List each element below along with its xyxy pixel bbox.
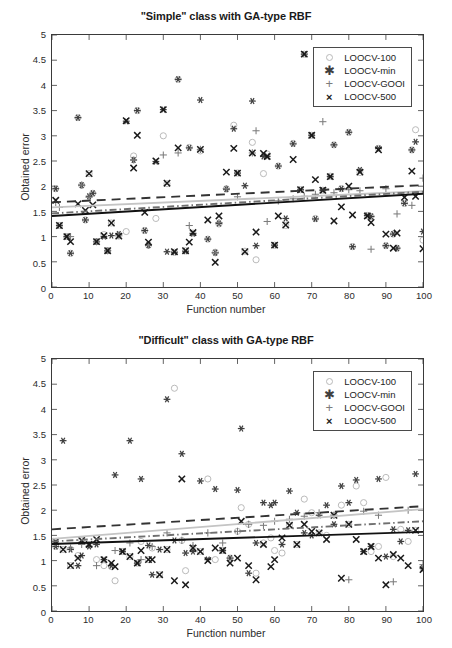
marker-cross xyxy=(405,562,411,568)
marker-asterisk xyxy=(182,550,189,556)
marker-cross xyxy=(245,562,251,568)
marker-circle xyxy=(231,122,237,128)
y-tick-label: 3 xyxy=(41,130,46,141)
marker-cross xyxy=(286,522,292,528)
y-tick-label: 5 xyxy=(41,29,46,40)
marker-asterisk xyxy=(323,502,330,508)
y-tick-label: 4 xyxy=(41,403,46,414)
marker-plus xyxy=(319,118,326,125)
marker-cross xyxy=(331,218,337,224)
x-tick-label: 100 xyxy=(416,614,432,625)
marker-cross xyxy=(216,213,222,219)
marker-plus xyxy=(204,529,211,536)
chart-panel-difficult: "Difficult" class with GA-type RBF 00.51… xyxy=(0,324,452,648)
marker-plus xyxy=(252,127,259,134)
y-tick-label: 0 xyxy=(41,607,46,618)
legend-label: LOOCV-GOOI xyxy=(340,78,405,89)
marker-asterisk xyxy=(234,487,241,493)
marker-cross xyxy=(375,555,381,561)
marker-asterisk xyxy=(279,542,286,548)
marker-plus xyxy=(390,578,397,585)
marker-cross xyxy=(234,555,240,561)
x-tick-label: 90 xyxy=(381,614,392,625)
marker-asterisk xyxy=(149,572,156,578)
y-tick-label: 3 xyxy=(41,454,46,465)
marker-asterisk xyxy=(253,243,260,249)
marker-circle xyxy=(160,133,166,139)
marker-asterisk xyxy=(345,500,352,506)
marker-cross xyxy=(290,156,296,162)
marker-asterisk xyxy=(145,543,152,549)
marker-cross xyxy=(349,212,355,218)
marker-plus xyxy=(264,218,271,225)
marker-cross xyxy=(212,545,218,551)
legend-entry-LOOCV-GOOI[interactable]: +LOOCV-GOOI xyxy=(318,401,405,414)
y-tick-label: 1.5 xyxy=(33,530,46,541)
legend-label: LOOCV-GOOI xyxy=(340,402,405,413)
marker-circle xyxy=(268,535,274,541)
legend-label: LOOCV-100 xyxy=(340,52,396,63)
legend-label: LOOCV-min xyxy=(340,65,395,76)
marker-cross xyxy=(60,546,66,552)
y-tick-label: 3.5 xyxy=(33,105,46,116)
y-tick-label: 1.5 xyxy=(33,206,46,217)
y-tick-label: 1 xyxy=(41,232,46,243)
legend-label: LOOCV-100 xyxy=(340,376,396,387)
x-tick-label: 80 xyxy=(344,614,355,625)
marker-asterisk xyxy=(197,97,204,103)
marker-circle xyxy=(412,127,418,133)
marker-plus xyxy=(393,210,400,217)
marker-circle xyxy=(171,385,177,391)
marker-asterisk xyxy=(412,139,419,145)
plot-area-simple: LOOCV-100✱LOOCV-min+LOOCV-GOOI×LOOCV-500 xyxy=(51,34,424,288)
marker-circle xyxy=(249,139,255,145)
marker-cross xyxy=(394,230,400,236)
marker-cross xyxy=(420,246,423,252)
marker-asterisk xyxy=(164,249,171,255)
marker-asterisk xyxy=(286,488,293,494)
marker-cross xyxy=(353,536,359,542)
marker-cross xyxy=(253,577,259,583)
marker-asterisk xyxy=(282,216,289,222)
marker-cross xyxy=(205,217,211,223)
marker-cross xyxy=(398,555,404,561)
marker-asterisk xyxy=(197,478,204,484)
marker-plus xyxy=(111,547,118,554)
marker-cross xyxy=(268,563,274,569)
legend-label: LOOCV-min xyxy=(340,389,395,400)
marker-asterisk xyxy=(253,540,260,546)
marker-circle xyxy=(101,563,107,569)
y-tick-label: 2.5 xyxy=(33,156,46,167)
marker-cross xyxy=(212,259,218,265)
marker-asterisk xyxy=(164,396,171,402)
marker-cross xyxy=(127,553,133,559)
x-tick-label: 0 xyxy=(48,614,53,625)
marker-asterisk xyxy=(242,183,249,189)
marker-cross xyxy=(383,582,389,588)
x-tick-label: 50 xyxy=(232,290,243,301)
y-tick-label: 0 xyxy=(41,283,46,294)
marker-cross xyxy=(223,169,229,175)
y-tick-label: 5 xyxy=(41,353,46,364)
x-tick-label: 80 xyxy=(344,290,355,301)
x-tick-label: 10 xyxy=(83,614,94,625)
marker-cross xyxy=(86,170,92,176)
legend-entry-LOOCV-GOOI[interactable]: +LOOCV-GOOI xyxy=(318,77,405,90)
plus-icon: + xyxy=(318,401,340,414)
x-tick-label: 60 xyxy=(270,614,281,625)
legend-entry-LOOCV-500[interactable]: ×LOOCV-500 xyxy=(318,90,405,103)
legend-entry-LOOCV-500[interactable]: ×LOOCV-500 xyxy=(318,414,405,427)
marker-asterisk xyxy=(383,554,390,560)
marker-plus xyxy=(160,151,167,158)
x-tick-label: 20 xyxy=(120,290,131,301)
x-tick-label: 70 xyxy=(307,614,318,625)
marker-asterisk xyxy=(108,233,115,239)
marker-asterisk xyxy=(60,438,67,444)
marker-cross xyxy=(409,168,415,174)
marker-circle xyxy=(361,500,367,506)
legend-simple: LOOCV-100✱LOOCV-min+LOOCV-GOOI×LOOCV-500 xyxy=(313,47,412,107)
x-axis-title-simple: Function number xyxy=(0,303,452,315)
x-tick-label: 30 xyxy=(158,614,169,625)
marker-plus xyxy=(367,246,374,253)
marker-circle xyxy=(238,505,244,511)
